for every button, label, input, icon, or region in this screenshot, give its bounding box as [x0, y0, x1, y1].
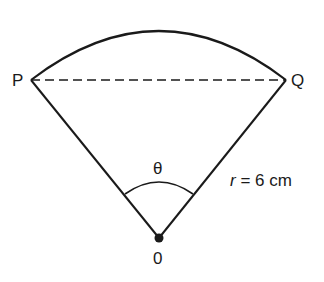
radius-oq	[159, 80, 286, 238]
radius-op	[31, 80, 159, 238]
label-o: 0	[153, 250, 162, 267]
angle-arc	[125, 182, 193, 194]
label-q: Q	[291, 72, 304, 89]
sector-diagram	[0, 0, 324, 282]
radius-value: = 6 cm	[236, 171, 292, 190]
label-radius: r = 6 cm	[230, 172, 292, 189]
center-point-o	[155, 234, 164, 243]
label-theta: θ	[153, 160, 162, 177]
arc-pq	[31, 31, 286, 80]
label-p: P	[12, 72, 23, 89]
